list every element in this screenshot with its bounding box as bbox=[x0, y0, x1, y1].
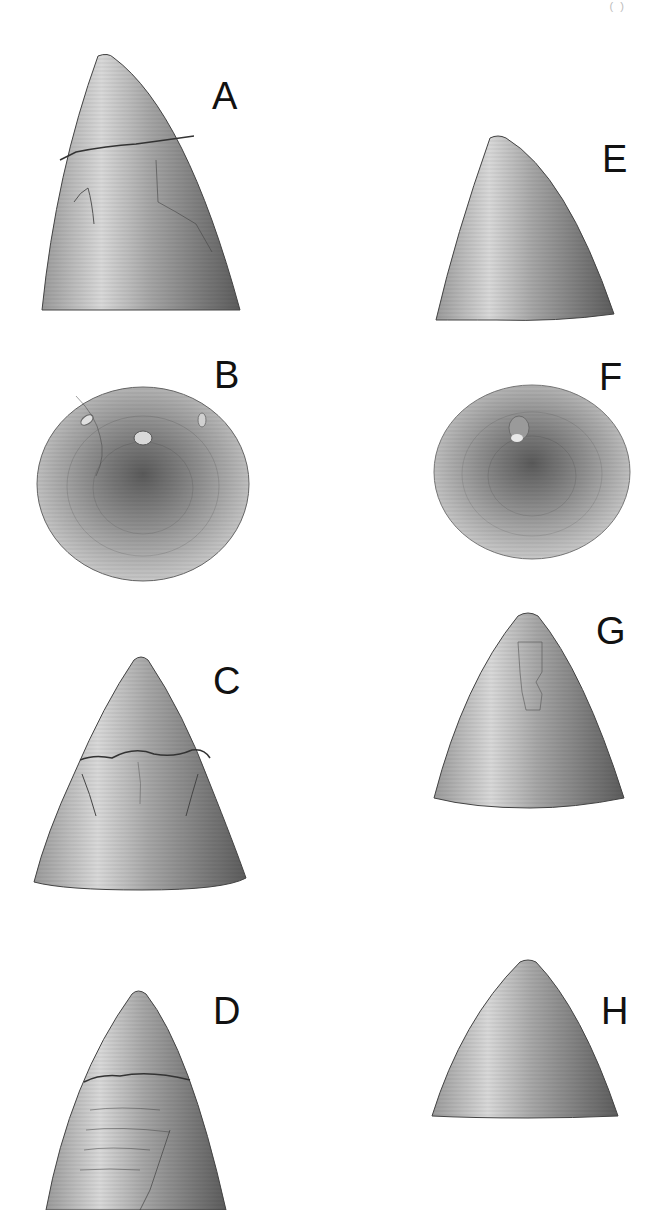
specimen-h bbox=[432, 960, 622, 1120]
page-header-mark: ( ) bbox=[610, 0, 626, 12]
panel-label-f: F bbox=[599, 358, 622, 396]
specimen-b bbox=[36, 386, 250, 582]
specimen-e bbox=[436, 134, 618, 324]
panel-label-c: C bbox=[213, 662, 240, 700]
panel-label-g: G bbox=[596, 612, 626, 650]
specimen-f bbox=[433, 384, 631, 560]
panel-label-e: E bbox=[602, 140, 627, 178]
panel-label-h: H bbox=[601, 992, 628, 1030]
specimen-d bbox=[40, 990, 240, 1210]
fossil-plate: ( ) A bbox=[0, 0, 666, 1210]
panel-label-a: A bbox=[212, 77, 237, 115]
panel-label-b: B bbox=[214, 356, 239, 394]
panel-label-d: D bbox=[213, 992, 240, 1030]
